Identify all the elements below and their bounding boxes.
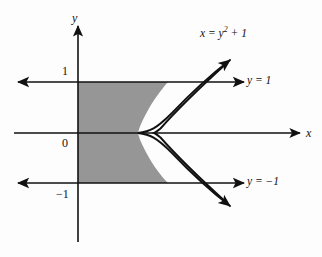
y-axis-label: y	[72, 12, 77, 24]
tick-label-y-negative-one: −1	[56, 188, 69, 200]
tick-label-y-one: 1	[62, 65, 68, 77]
curve-equation-label: x = y2 + 1	[200, 28, 247, 40]
line-label-y-equals-one: y = 1	[247, 75, 271, 87]
figure-container: y x 1 0 −1 y = 1 y = −1 x = y2 + 1	[0, 0, 322, 257]
tick-label-origin: 0	[62, 137, 68, 149]
x-axis-label: x	[306, 127, 311, 139]
line-label-y-equals-negative-one: y = −1	[247, 176, 279, 188]
curve-equation-prefix: x = y	[200, 27, 224, 39]
graph-canvas	[0, 0, 322, 257]
curve-equation-suffix: + 1	[228, 27, 247, 39]
